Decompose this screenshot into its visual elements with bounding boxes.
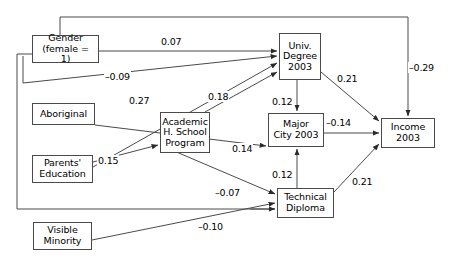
path-diagram: Gender (female = 1) Aboriginal Parents' …	[0, 0, 453, 267]
node-majorcity-line2: City 2003	[272, 130, 321, 141]
node-parents-education[interactable]: Parents' Education	[32, 155, 93, 183]
edge-label-aboriginal-majorcity: 0.14	[231, 143, 253, 154]
node-univ-degree-2003[interactable]: Univ. Degree 2003	[279, 33, 321, 80]
node-gender[interactable]: Gender (female = 1)	[32, 35, 99, 63]
node-aboriginal[interactable]: Aboriginal	[32, 103, 95, 125]
node-aboriginal-line1: Aboriginal	[38, 109, 89, 120]
edge-label-gender-income: –0.29	[408, 62, 435, 73]
node-visible-minority[interactable]: Visible Minority	[33, 222, 92, 250]
edge-label-technical-income: 0.21	[351, 176, 373, 187]
node-income-line2: 2003	[389, 133, 427, 144]
node-major-city-2003[interactable]: Major City 2003	[268, 113, 324, 147]
node-gender-line2: (female = 1)	[35, 44, 96, 65]
edge-label-majorcity-income: –0.14	[325, 117, 352, 128]
node-univ-line3: 2003	[281, 62, 319, 73]
edge-label-univ-income: 0.21	[336, 73, 358, 84]
edge-label-visible-technical: –0.10	[197, 221, 224, 232]
edge-label-parents-univ: 0.27	[128, 95, 150, 106]
edge-label-parents-academic: 0.15	[97, 155, 119, 166]
edge-label-gender-univ: 0.07	[160, 36, 182, 47]
node-visible-line2: Minority	[42, 236, 84, 247]
node-income-2003[interactable]: Income 2003	[381, 118, 435, 148]
node-academic-hs-program[interactable]: Academic H. School Program	[160, 112, 210, 153]
edge-label-academic-univ: 0.18	[207, 91, 229, 102]
edge-label-aboriginal-univ: –0.09	[104, 71, 131, 82]
node-academic-line3: Program	[160, 138, 210, 149]
edge-label-technical-majorcity: 0.12	[271, 169, 293, 180]
node-parents-line2: Education	[37, 169, 87, 180]
edge-label-univ-majorcity: 0.12	[271, 96, 293, 107]
node-technical-line2: Diploma	[282, 203, 329, 214]
node-technical-diploma[interactable]: Technical Diploma	[277, 188, 334, 218]
edge-label-academic-technical: –0.07	[214, 187, 241, 198]
